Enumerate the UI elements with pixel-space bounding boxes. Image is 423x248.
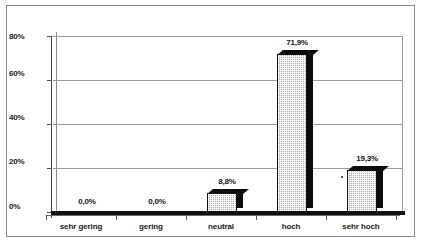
bar-front-face-neutral [207,193,237,212]
y-tick-label-40: 40% [9,113,47,122]
bar-value-label-hoch: 71,9% [271,38,323,47]
bar-sehr-hoch[interactable] [347,170,383,212]
bar-hoch[interactable] [277,54,313,212]
bar-side-face-sehr-hoch [376,166,383,208]
y-axis: 80% 60% 40% 20% 0% [7,6,47,248]
x-tick-mark-1 [116,215,117,220]
x-axis-floor-front-edge [46,215,400,216]
y-axis-line [51,36,52,218]
bar-front-face-hoch [277,54,307,212]
x-tick-mark-5 [396,215,397,220]
y-tick-label-80: 80% [9,32,47,41]
x-axis-label-hoch: hoch [256,222,326,231]
scan-speck [341,176,343,178]
x-axis-label-sehr-hoch: sehr hoch [326,222,396,231]
bar-value-label-gering: 0,0% [131,197,183,206]
x-tick-mark-4 [326,215,327,220]
bar-front-face-sehr-hoch [347,170,377,212]
bar-side-face-neutral [236,189,243,208]
bar-neutral[interactable] [207,193,243,212]
x-axis-label-sehr-gering: sehr gering [46,222,116,231]
bar-group-hoch: 71,9% [277,36,321,212]
y-tick-label-20: 20% [9,157,47,166]
bar-group-gering: 0,0% [137,36,181,212]
y-tick-label-0: 0% [9,202,47,211]
bar-value-label-sehr-gering: 0,0% [61,197,113,206]
chart-frame: 80% 60% 40% 20% 0% 0,0% 0,0% [6,5,415,237]
x-axis-label-gering: gering [116,222,186,231]
x-tick-mark-0 [46,215,47,220]
bar-group-sehr-gering: 0,0% [67,36,111,212]
x-tick-mark-3 [256,215,257,220]
plot-area: 0,0% 0,0% 8,8% 71,9% [53,36,403,212]
bar-group-neutral: 8,8% [207,36,251,212]
y-tick-label-60: 60% [9,69,47,78]
x-tick-mark-2 [186,215,187,220]
x-axis-label-neutral: neutral [186,222,256,231]
bar-side-face-hoch [306,50,313,208]
bar-value-label-sehr-hoch: 19,3% [341,154,393,163]
bar-value-label-neutral: 8,8% [201,177,253,186]
bar-group-sehr-hoch: 19,3% [347,36,391,212]
